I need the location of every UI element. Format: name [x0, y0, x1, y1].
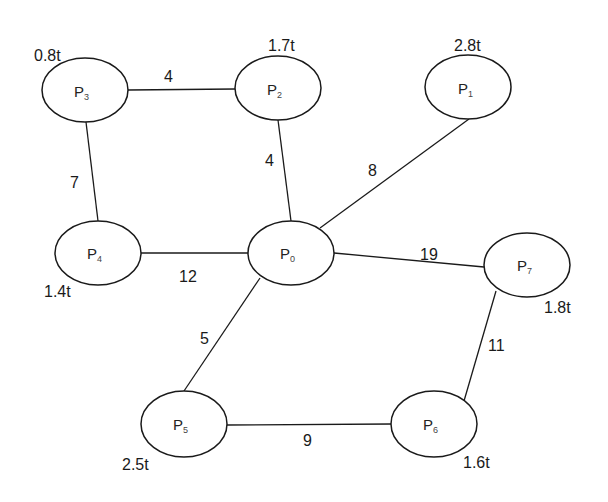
weight-p4-p0: 12 [179, 268, 197, 285]
capacity-p3: 0.8t [34, 47, 61, 64]
capacity-p6: 1.6t [463, 454, 490, 471]
capacity-p1: 2.8t [454, 37, 481, 54]
node-p1[interactable]: P1 [425, 55, 511, 119]
node-p2-ellipse [235, 56, 321, 120]
node-p6-ellipse [391, 391, 477, 457]
weight-p0-p7: 19 [420, 246, 438, 263]
node-p4[interactable]: P4 [55, 221, 141, 285]
edge-p1-p0 [320, 119, 469, 228]
node-p3-ellipse [42, 58, 128, 122]
node-p3[interactable]: P3 [42, 58, 128, 122]
edge-p0-p7 [334, 253, 484, 267]
edge-p2-p0 [278, 120, 291, 221]
weight-p1-p0: 8 [368, 162, 377, 179]
node-p7[interactable]: P7 [484, 233, 570, 297]
graph-canvas: 4 7 4 8 12 19 5 11 9 P3 P2 P1 P4 P0 P7 P… [0, 0, 608, 502]
weight-p3-p4: 7 [70, 174, 79, 191]
capacity-p2: 1.7t [268, 37, 295, 54]
node-p2[interactable]: P2 [235, 56, 321, 120]
weight-p3-p2: 4 [164, 68, 173, 85]
edge-p0-p5 [184, 278, 260, 391]
capacity-p4: 1.4t [44, 283, 71, 300]
node-p0-ellipse [248, 221, 334, 285]
edge-p5-p6 [227, 424, 391, 425]
node-p5-ellipse [141, 391, 227, 457]
node-p4-ellipse [55, 221, 141, 285]
node-p0[interactable]: P0 [248, 221, 334, 285]
weight-p5-p6: 9 [303, 432, 312, 449]
weight-p0-p5: 5 [200, 330, 209, 347]
capacity-p7: 1.8t [544, 299, 571, 316]
capacity-p5: 2.5t [122, 456, 149, 473]
node-p5[interactable]: P5 [141, 391, 227, 457]
edge-p3-p2 [128, 89, 235, 90]
node-p6[interactable]: P6 [391, 391, 477, 457]
edge-p3-p4 [86, 122, 98, 221]
weight-p2-p0: 4 [265, 152, 274, 169]
weight-p7-p6: 11 [488, 337, 505, 354]
